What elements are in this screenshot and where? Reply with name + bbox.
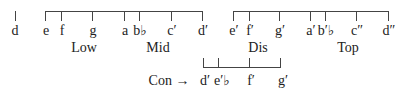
group-label: Mid: [146, 41, 169, 55]
note-label: g′: [275, 24, 285, 38]
note-label: a′: [306, 24, 315, 38]
group-label: Top: [337, 41, 359, 55]
note-label: a: [122, 24, 128, 38]
note-label: e′: [229, 24, 238, 38]
con-note-label: g′: [278, 74, 288, 88]
note-label: d′: [198, 24, 208, 38]
note-label: f: [60, 24, 65, 38]
note-label: d″: [383, 24, 396, 38]
con-note-label: e′♭: [214, 74, 230, 88]
group-label: Dis: [248, 41, 267, 55]
note-label: d: [12, 24, 19, 38]
con-note-label: f′: [247, 74, 255, 88]
note-label: g: [90, 24, 97, 38]
group-label: Low: [71, 41, 97, 55]
note-label: c′: [167, 24, 176, 38]
con-label: Con →: [149, 74, 190, 88]
note-label: c″: [351, 24, 363, 38]
con-note-label: d′: [200, 74, 210, 88]
note-label: e: [43, 24, 49, 38]
note-label: f′: [246, 24, 254, 38]
note-label: b♭: [133, 24, 147, 38]
note-label: b′♭: [318, 24, 335, 38]
